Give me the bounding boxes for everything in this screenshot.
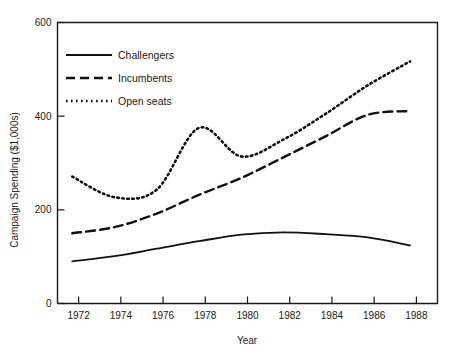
y-axis-title: Campaign Spending ($1,000s) <box>9 112 20 248</box>
chart-legend: ChallengersIncumbentsOpen seats <box>66 49 174 107</box>
x-tick-label: 1984 <box>321 310 344 321</box>
chart-container: 0200400600 19721974197619781980198219841… <box>0 0 455 354</box>
series-lines <box>72 61 410 261</box>
y-tick-label: 0 <box>46 298 52 309</box>
x-axis-title: Year <box>237 335 258 346</box>
plot-frame <box>58 23 438 304</box>
x-axis-ticks: 197219741976197819801982198419861988 <box>67 297 427 321</box>
series-line-challengers <box>72 232 410 261</box>
x-tick-label: 1982 <box>279 310 302 321</box>
x-tick-label: 1988 <box>405 310 428 321</box>
x-tick-label: 1978 <box>194 310 217 321</box>
x-tick-label: 1986 <box>363 310 386 321</box>
x-tick-label: 1972 <box>67 310 90 321</box>
y-axis-ticks: 0200400600 <box>35 17 65 309</box>
series-line-incumbents <box>72 111 410 233</box>
line-chart-figure: 0200400600 19721974197619781980198219841… <box>0 0 455 354</box>
legend-label-open-seats: Open seats <box>118 95 172 107</box>
x-tick-label: 1980 <box>236 310 259 321</box>
legend-label-incumbents: Incumbents <box>118 72 172 84</box>
y-tick-label: 400 <box>35 111 52 122</box>
plot-border <box>58 23 438 304</box>
y-tick-label: 200 <box>35 204 52 215</box>
x-tick-label: 1976 <box>152 310 175 321</box>
y-tick-label: 600 <box>35 17 52 28</box>
x-tick-label: 1974 <box>110 310 133 321</box>
legend-label-challengers: Challengers <box>118 49 174 61</box>
